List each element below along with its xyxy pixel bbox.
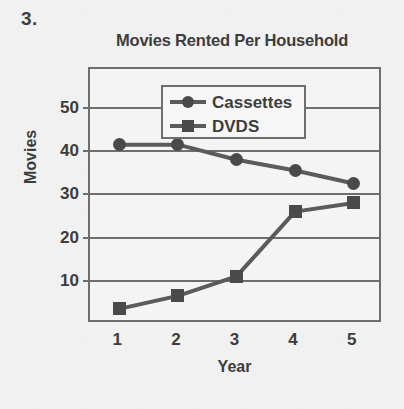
y-tick-label-10: 10: [60, 271, 79, 291]
data-point-cassettes-4: [289, 164, 302, 177]
y-tick-label-20: 20: [60, 228, 79, 248]
x-axis-title: Year: [88, 358, 381, 376]
legend-entry-cassettes: Cassettes: [163, 90, 304, 114]
problem-number: 3.: [21, 8, 38, 30]
y-tick-20: [83, 237, 90, 239]
square-marker-icon: [170, 117, 206, 135]
legend-entry-dvds: DVDS: [163, 114, 304, 138]
plot-area: 1020304050 Cassettes DVDS: [88, 67, 381, 322]
chart-title: Movies Rented Per Household: [60, 31, 404, 50]
x-tick-label-5: 5: [347, 330, 356, 350]
chart-legend: Cassettes DVDS: [161, 85, 306, 139]
x-tick-label-4: 4: [288, 330, 297, 350]
y-tick-10: [83, 280, 90, 282]
legend-label-cassettes: Cassettes: [212, 94, 292, 111]
data-point-dvds-3: [230, 270, 243, 283]
legend-label-dvds: DVDS: [212, 118, 259, 135]
x-tick-label-3: 3: [230, 330, 239, 350]
y-tick-label-40: 40: [60, 141, 79, 161]
y-axis-title: Movies: [22, 144, 40, 184]
y-tick-30: [83, 193, 90, 195]
circle-marker-icon: [170, 93, 206, 111]
data-point-dvds-2: [171, 289, 184, 302]
data-point-dvds-4: [289, 205, 302, 218]
y-tick-50: [83, 107, 90, 109]
y-tick-label-50: 50: [60, 98, 79, 118]
y-tick-40: [83, 150, 90, 152]
data-point-dvds-5: [347, 196, 360, 209]
data-point-dvds-1: [113, 302, 126, 315]
data-point-cassettes-1: [113, 138, 126, 151]
y-tick-label-30: 30: [60, 184, 79, 204]
series-line-dvds: [119, 203, 353, 309]
x-tick-label-2: 2: [171, 330, 180, 350]
x-tick-label-1: 1: [113, 330, 122, 350]
